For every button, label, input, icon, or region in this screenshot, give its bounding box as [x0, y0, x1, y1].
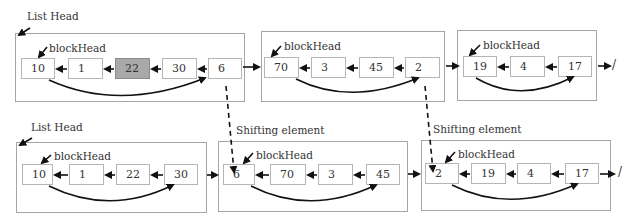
list-head-arrow-icon	[20, 138, 32, 145]
arrows-overlay	[0, 0, 633, 223]
shifting-arrow-icon	[425, 86, 433, 171]
list-head-arrow-icon	[19, 28, 30, 35]
shifting-arrow-icon	[226, 86, 234, 172]
